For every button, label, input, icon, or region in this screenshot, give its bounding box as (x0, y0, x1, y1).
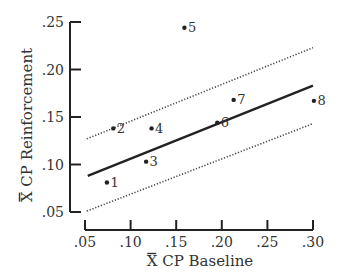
x-tick-label: .05 (74, 234, 96, 250)
x-axis: .05.10.15.20.25.30 (74, 220, 324, 250)
point-label: 4 (155, 121, 163, 136)
y-tick-label: .20 (42, 62, 64, 78)
point-marker (182, 26, 186, 30)
y-tick-label: .05 (42, 204, 64, 220)
data-point-3: 3 (144, 154, 158, 169)
point-marker (312, 99, 316, 103)
data-point-4: 4 (149, 121, 163, 136)
x-tick-label: .15 (165, 234, 187, 250)
y-tick-label: .25 (42, 14, 64, 30)
y-tick-label: .15 (42, 109, 64, 125)
data-points: 12345678 (105, 20, 326, 190)
point-label: 2 (117, 121, 125, 136)
data-point-7: 7 (231, 92, 245, 107)
point-marker (231, 98, 235, 102)
point-label: 6 (221, 115, 229, 130)
x-axis-title: X CP Baseline (147, 252, 254, 270)
y-axis: .05.10.15.20.25 (42, 14, 81, 220)
point-marker (144, 159, 148, 163)
point-marker (215, 121, 219, 125)
y-tick-label: .10 (42, 157, 64, 173)
point-label: 7 (237, 92, 245, 107)
point-label: 5 (188, 20, 196, 35)
point-marker (149, 126, 153, 130)
point-marker (105, 180, 109, 184)
y-axis-title: X CP Reinforcement (18, 48, 36, 202)
x-tick-label: .25 (256, 234, 278, 250)
point-marker (111, 126, 115, 130)
point-label: 3 (150, 154, 158, 169)
scatter-chart: .05.10.15.20.25 .05.10.15.20.25.30 12345… (0, 0, 339, 278)
point-label: 8 (317, 93, 325, 108)
data-point-1: 1 (105, 175, 119, 190)
data-point-5: 5 (182, 20, 196, 35)
y-axis-title-text: X CP Reinforcement (18, 48, 36, 202)
x-tick-label: .30 (302, 234, 324, 250)
x-tick-label: .10 (119, 234, 141, 250)
data-point-2: 2 (111, 121, 125, 136)
data-point-8: 8 (312, 93, 326, 108)
data-point-6: 6 (215, 115, 229, 130)
point-label: 1 (110, 175, 118, 190)
x-axis-title-text: X CP Baseline (147, 252, 254, 270)
lower-band-line (87, 124, 313, 211)
x-tick-label: .20 (211, 234, 233, 250)
